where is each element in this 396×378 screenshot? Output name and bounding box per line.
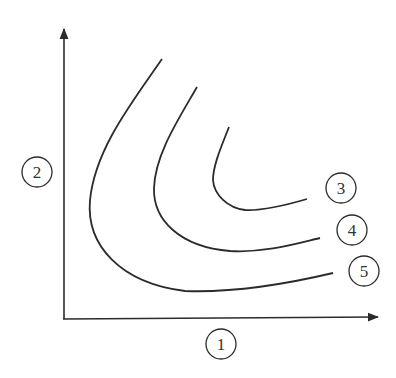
y-axis-label: 2 — [22, 157, 52, 187]
curve-5 — [90, 59, 333, 291]
curve-4 — [154, 87, 320, 251]
x-axis-label-text: 1 — [217, 335, 226, 354]
curve-5-label-text: 5 — [360, 262, 369, 281]
diagram-canvas: 2 1 3 4 5 — [0, 0, 396, 378]
curve-3-label: 3 — [326, 173, 356, 203]
curve-5-label: 5 — [349, 256, 379, 286]
x-axis — [63, 317, 378, 319]
curve-4-label-text: 4 — [348, 221, 357, 240]
curve-4-label: 4 — [337, 215, 367, 245]
curve-3-label-text: 3 — [337, 179, 346, 198]
x-axis-label: 1 — [206, 329, 236, 359]
y-axis-label-text: 2 — [33, 163, 42, 182]
curve-3 — [213, 127, 307, 210]
